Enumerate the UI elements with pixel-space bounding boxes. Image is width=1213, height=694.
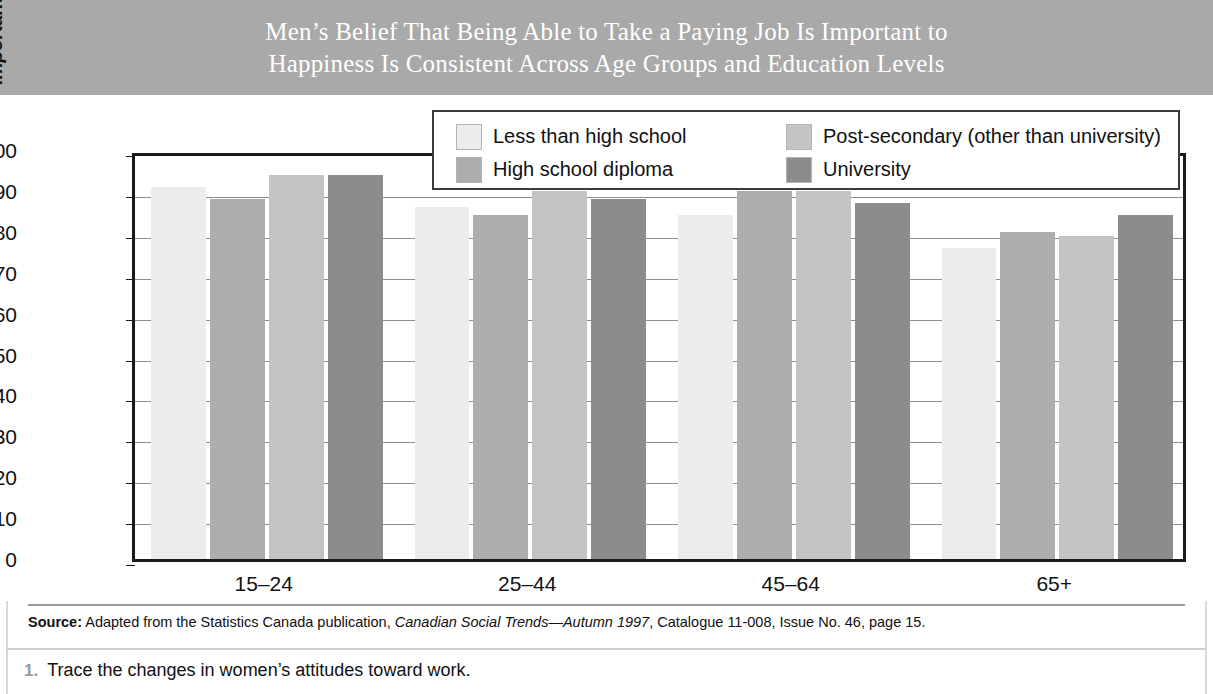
y-axis-tick-label: 20 (0, 466, 17, 490)
source-publication-title: Canadian Social Trends—Autumn 1997 (395, 614, 649, 630)
y-axis-tick-label: 40 (0, 384, 17, 408)
y-axis-tick-mark (126, 361, 135, 362)
question-divider (6, 648, 1206, 650)
y-axis-tick-label: 80 (0, 221, 17, 245)
chart-legend: Less than high school Post-secondary (ot… (432, 110, 1180, 190)
y-axis-tick-mark (126, 197, 135, 198)
x-axis-category-label: 15–24 (132, 572, 396, 596)
legend-item-university: University (786, 157, 911, 183)
plot-area (132, 153, 1186, 562)
question-item: 1. Trace the changes in women’s attitude… (24, 660, 1184, 681)
y-axis-tick-mark (126, 238, 135, 239)
y-axis-tick-mark (126, 279, 135, 280)
x-axis-category-label: 25–44 (396, 572, 660, 596)
bars-layer (135, 156, 1183, 559)
bar (151, 187, 206, 559)
bar (678, 215, 733, 559)
legend-row-1: Less than high school Post-secondary (ot… (456, 120, 1178, 153)
x-axis-category-label: 45–64 (659, 572, 923, 596)
y-axis-tick-label: 70 (0, 262, 17, 286)
bar (1118, 215, 1173, 559)
bar (855, 203, 910, 559)
bar (532, 191, 587, 559)
bar (328, 175, 383, 559)
y-axis-title: Percent of men who stated important or v… (0, 0, 7, 110)
legend-swatch-icon (786, 124, 812, 150)
bar (591, 199, 646, 559)
y-axis-tick-label: 90 (0, 180, 17, 204)
source-label: Source: (28, 614, 82, 630)
bar (210, 199, 265, 559)
page-title-line-2: Happiness Is Consistent Across Age Group… (268, 48, 944, 80)
y-axis-tick-label: 30 (0, 425, 17, 449)
legend-item-high-school-diploma: High school diploma (456, 157, 786, 183)
legend-label: High school diploma (493, 158, 673, 181)
question-number: 1. (24, 661, 38, 681)
source-text-before: Adapted from the Statistics Canada publi… (82, 614, 395, 630)
legend-swatch-icon (456, 157, 482, 183)
y-axis-tick-label: 100 (0, 139, 17, 163)
y-axis-tick-mark (126, 156, 135, 157)
source-text-after: , Catalogue 11-008, Issue No. 46, page 1… (649, 614, 925, 630)
bar (473, 215, 528, 559)
y-axis-tick-mark (126, 442, 135, 443)
y-axis-tick-mark (126, 524, 135, 525)
y-axis-tick-mark (126, 483, 135, 484)
y-axis-tick-label: 50 (0, 344, 17, 368)
bar (796, 191, 851, 559)
page-title: Men’s Belief That Being Able to Take a P… (0, 0, 1213, 95)
source-divider (28, 604, 1185, 606)
y-axis-tick-label: 60 (0, 303, 17, 327)
legend-label: Less than high school (493, 125, 686, 148)
x-axis-category-label: 65+ (923, 572, 1187, 596)
page-title-line-1: Men’s Belief That Being Able to Take a P… (265, 16, 947, 48)
y-axis-tick-label: 10 (0, 507, 17, 531)
question-text: Trace the changes in women’s attitudes t… (47, 660, 470, 681)
legend-item-less-than-high-school: Less than high school (456, 124, 786, 150)
legend-swatch-icon (456, 124, 482, 150)
legend-label: University (823, 158, 911, 181)
legend-swatch-icon (786, 157, 812, 183)
y-axis-tick-mark (126, 320, 135, 321)
y-axis-tick-label: 0 (0, 548, 17, 572)
y-axis-title-line-2: important or very important (0, 0, 7, 110)
bar (269, 175, 324, 559)
bar (1000, 232, 1055, 559)
source-note: Source: Adapted from the Statistics Cana… (28, 614, 1188, 630)
legend-item-post-secondary: Post-secondary (other than university) (786, 124, 1161, 150)
bar (415, 207, 470, 559)
bar (737, 191, 792, 559)
bar (1059, 236, 1114, 559)
legend-label: Post-secondary (other than university) (823, 125, 1161, 148)
y-axis-tick-mark (126, 565, 135, 566)
y-axis-tick-mark (126, 401, 135, 402)
bar (942, 248, 997, 559)
legend-row-2: High school diploma University (456, 153, 1178, 186)
